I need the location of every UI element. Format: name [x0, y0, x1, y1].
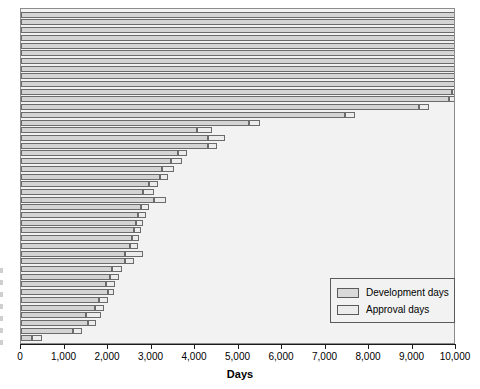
bar-segment-development [21, 251, 125, 257]
bar-segment-development [21, 81, 455, 87]
bar-segment-development [21, 258, 125, 264]
bar-segment-development [21, 150, 178, 156]
bar-segment-development [21, 66, 455, 72]
x-tick-3000 [151, 344, 152, 349]
x-tick-label-0: 0 [17, 351, 23, 363]
bar-segment-development [21, 227, 134, 233]
bar-segment-development [21, 312, 86, 318]
bar-segment-development [21, 289, 108, 295]
x-tick-6000 [281, 344, 282, 349]
bar-segment-development [21, 50, 455, 56]
bar-segment-development [21, 27, 455, 33]
bar-segment-approval [106, 281, 115, 287]
bar-segment-development [21, 166, 162, 172]
legend-swatch-development-icon [337, 288, 359, 298]
bar-segment-development [21, 58, 455, 64]
bar-segment-approval [88, 320, 96, 326]
bar-segment-development [21, 181, 149, 187]
bar-segment-approval [208, 143, 217, 149]
bar-segment-approval [86, 312, 101, 318]
bar-segment-approval [208, 135, 225, 141]
x-tick-2000 [107, 344, 108, 349]
x-tick-label-3000: 3,000 [138, 351, 163, 363]
bar-segment-approval [136, 220, 143, 226]
bar-segment-development [21, 96, 449, 102]
bar-segment-approval [449, 96, 455, 102]
bar-segment-development [21, 73, 455, 79]
x-tick-5000 [238, 344, 239, 349]
bar-segment-development [21, 274, 110, 280]
x-tick-label-2000: 2,000 [94, 351, 119, 363]
bar-segment-development [21, 112, 345, 118]
bar-segment-approval [160, 174, 167, 180]
legend-item-approval: Approval days [337, 301, 448, 318]
cropped-label-mark [0, 316, 3, 321]
bar-segment-approval [143, 189, 154, 195]
x-tick-label-5000: 5,000 [225, 351, 250, 363]
x-tick-label-9000: 9,000 [399, 351, 424, 363]
legend-label-approval: Approval days [366, 304, 429, 315]
cropped-label-mark [0, 268, 3, 273]
x-tick-10000 [455, 344, 456, 349]
bar-segment-approval [138, 212, 146, 218]
bar-segment-development [21, 266, 112, 272]
legend-label-development: Development days [366, 287, 449, 298]
bar-segment-approval [345, 112, 355, 118]
bar-segment-development [21, 89, 452, 95]
bar-segment-development [21, 235, 132, 241]
x-axis-title: Days [0, 368, 480, 380]
bar-segment-development [21, 158, 171, 164]
bar-segment-approval [99, 297, 108, 303]
x-tick-label-1000: 1,000 [51, 351, 76, 363]
bar-segment-approval [197, 127, 212, 133]
cropped-label-mark [0, 328, 3, 333]
chart-legend: Development days Approval days [330, 278, 455, 323]
x-tick-9000 [412, 344, 413, 349]
bar-segment-development [21, 297, 99, 303]
cropped-label-mark [0, 340, 3, 345]
x-tick-7000 [325, 344, 326, 349]
bar-segment-approval [419, 104, 429, 110]
bar-segment-approval [149, 181, 158, 187]
bar-segment-development [21, 189, 143, 195]
legend-swatch-approval-icon [337, 305, 359, 315]
bar-segment-development [21, 135, 208, 141]
bar-segment-approval [32, 335, 42, 341]
bar-segment-development [21, 328, 73, 334]
x-tick-4000 [194, 344, 195, 349]
bar-segment-approval [95, 305, 104, 311]
bar-segment-approval [154, 197, 166, 203]
chart-container: 01,0002,0003,0004,0005,0006,0007,0008,00… [0, 0, 480, 389]
bar-segment-development [21, 320, 88, 326]
x-tick-1000 [64, 344, 65, 349]
bar-segment-development [21, 12, 455, 18]
bar-segment-approval [171, 158, 182, 164]
bar-segment-approval [162, 166, 174, 172]
x-tick-label-7000: 7,000 [312, 351, 337, 363]
bar-segment-approval [112, 266, 122, 272]
bar-segment-development [21, 35, 455, 41]
bar-segment-approval [134, 227, 141, 233]
bar-segment-development [21, 19, 455, 25]
bar-segment-development [21, 212, 138, 218]
bar-segment-development [21, 220, 136, 226]
bar-segment-approval [452, 89, 455, 95]
bar-segment-approval [125, 251, 142, 257]
cropped-label-mark [0, 304, 3, 309]
bar-segment-development [21, 143, 208, 149]
bar-segment-development [21, 281, 106, 287]
bar-segment-development [21, 174, 160, 180]
bar-segment-development [21, 335, 32, 341]
x-tick-label-10000: 10,000 [440, 351, 471, 363]
bar-segment-approval [73, 328, 82, 334]
bar-segment-development [21, 204, 141, 210]
bar-segment-approval [141, 204, 150, 210]
bar-segment-approval [130, 243, 138, 249]
bar-segment-development [21, 243, 130, 249]
legend-item-development: Development days [337, 284, 448, 301]
bar-segment-approval [132, 235, 139, 241]
x-tick-label-4000: 4,000 [181, 351, 206, 363]
cropped-label-mark [0, 292, 3, 297]
bar-segment-development [21, 127, 197, 133]
bar-segment-approval [108, 289, 114, 295]
